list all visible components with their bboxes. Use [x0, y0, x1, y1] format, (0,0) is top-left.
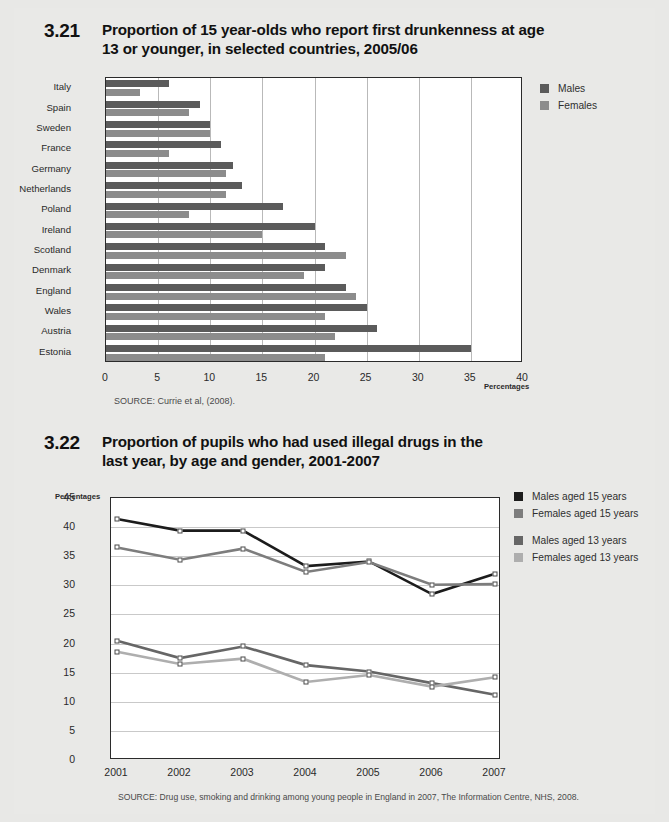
- legend-item: Males aged 13 years: [514, 535, 638, 546]
- bar-males-france: [106, 141, 221, 148]
- legend-swatch-icon: [540, 101, 549, 110]
- bar-females-italy: [106, 89, 140, 96]
- x-tick-2006: 2006: [419, 766, 442, 778]
- data-point-marker: [241, 644, 246, 649]
- legend-label: Males: [558, 83, 585, 94]
- data-point-marker: [178, 656, 183, 661]
- bar-males-spain: [106, 101, 200, 108]
- line-chart-axis-note: Percentages: [55, 492, 100, 501]
- x-tick-15: 15: [256, 371, 268, 383]
- x-tick-2004: 2004: [293, 766, 316, 778]
- legend-label: Females: [558, 100, 597, 111]
- data-point-marker: [304, 679, 309, 684]
- figure-3-21-header: 3.21 Proportion of 15 year-olds who repo…: [44, 20, 644, 58]
- figure-3-22-source: SOURCE: Drug use, smoking and drinking a…: [118, 792, 579, 802]
- legend-item: Females aged 13 years: [514, 552, 638, 563]
- x-tick-2002: 2002: [167, 766, 190, 778]
- category-label-england: England: [36, 285, 71, 296]
- legend-label: Females aged 13 years: [532, 552, 638, 563]
- y-tick-30: 30: [63, 578, 75, 590]
- data-point-marker: [304, 663, 309, 668]
- legend-swatch-icon: [540, 84, 549, 93]
- data-point-marker: [367, 672, 372, 677]
- y-tick-5: 5: [69, 724, 75, 736]
- legend-swatch-icon: [514, 492, 523, 501]
- legend-swatch-icon: [514, 553, 523, 562]
- data-point-marker: [430, 684, 435, 689]
- x-tick-2007: 2007: [482, 766, 505, 778]
- data-point-marker: [304, 569, 309, 574]
- figure-3-21-number: 3.21: [44, 20, 102, 42]
- y-tick-45: 45: [63, 491, 75, 503]
- line-chart-plot-area: [110, 497, 500, 759]
- bar-males-ireland: [106, 223, 315, 230]
- legend-item: Males: [540, 83, 597, 94]
- line-males-aged-15-years: [117, 519, 495, 594]
- category-label-poland: Poland: [41, 203, 71, 214]
- data-point-marker: [304, 564, 309, 569]
- document-page: 3.21 Proportion of 15 year-olds who repo…: [0, 0, 669, 822]
- data-point-marker: [367, 560, 372, 565]
- x-tick-25: 25: [360, 371, 372, 383]
- bar-females-austria: [106, 333, 335, 340]
- figure-3-21-title-line2: 13 or younger, in selected countries, 20…: [102, 39, 544, 58]
- figure-3-22-header: 3.22 Proportion of pupils who had used i…: [44, 432, 644, 470]
- bar-males-austria: [106, 325, 377, 332]
- data-point-marker: [430, 582, 435, 587]
- bar-females-germany: [106, 170, 226, 177]
- bar-males-sweden: [106, 121, 210, 128]
- y-tick-10: 10: [63, 695, 75, 707]
- bar-chart-plot-area: [105, 77, 522, 362]
- y-tick-0: 0: [69, 753, 75, 765]
- data-point-marker: [493, 571, 498, 576]
- bar-females-spain: [106, 109, 189, 116]
- figure-3-21-source: SOURCE: Currie et al, (2008).: [114, 396, 235, 406]
- figure-3-22-number: 3.22: [44, 432, 102, 454]
- bar-chart-legend: MalesFemales: [540, 83, 597, 117]
- data-point-marker: [430, 592, 435, 597]
- data-point-marker: [115, 545, 120, 550]
- category-label-austria: Austria: [41, 325, 71, 336]
- figure-3-22-title-line1: Proportion of pupils who had used illega…: [102, 432, 483, 451]
- gridline: [471, 78, 472, 361]
- figure-3-21-title: Proportion of 15 year-olds who report fi…: [102, 20, 544, 58]
- bar-males-wales: [106, 304, 367, 311]
- data-point-marker: [493, 675, 498, 680]
- figure-3-22-title: Proportion of pupils who had used illega…: [102, 432, 483, 470]
- x-tick-2003: 2003: [230, 766, 253, 778]
- gridline: [367, 78, 368, 361]
- bar-males-germany: [106, 162, 233, 169]
- page-content: 3.21 Proportion of 15 year-olds who repo…: [14, 8, 655, 814]
- y-tick-20: 20: [63, 637, 75, 649]
- bar-females-netherlands: [106, 191, 226, 198]
- legend-item: Males aged 15 years: [514, 491, 638, 502]
- category-label-france: France: [41, 142, 71, 153]
- legend-label: Males aged 15 years: [532, 491, 627, 502]
- data-point-marker: [178, 528, 183, 533]
- data-point-marker: [241, 528, 246, 533]
- x-tick-0: 0: [102, 371, 108, 383]
- bar-females-sweden: [106, 130, 210, 137]
- legend-label: Males aged 13 years: [532, 535, 627, 546]
- bar-males-denmark: [106, 264, 325, 271]
- bar-males-italy: [106, 80, 169, 87]
- gridline: [419, 78, 420, 361]
- y-tick-35: 35: [63, 549, 75, 561]
- figure-3-21-title-line1: Proportion of 15 year-olds who report fi…: [102, 20, 544, 39]
- legend-label: Females aged 15 years: [532, 508, 638, 519]
- data-point-marker: [178, 661, 183, 666]
- bar-females-england: [106, 293, 356, 300]
- category-label-estonia: Estonia: [39, 346, 71, 357]
- data-point-marker: [241, 656, 246, 661]
- category-label-germany: Germany: [32, 163, 71, 174]
- data-point-marker: [241, 546, 246, 551]
- bar-females-denmark: [106, 272, 304, 279]
- bar-females-poland: [106, 211, 189, 218]
- data-point-marker: [493, 582, 498, 587]
- x-tick-2001: 2001: [104, 766, 127, 778]
- data-point-marker: [115, 649, 120, 654]
- data-point-marker: [115, 516, 120, 521]
- category-label-italy: Italy: [53, 81, 71, 92]
- bar-males-netherlands: [106, 182, 242, 189]
- legend-item: Females: [540, 100, 597, 111]
